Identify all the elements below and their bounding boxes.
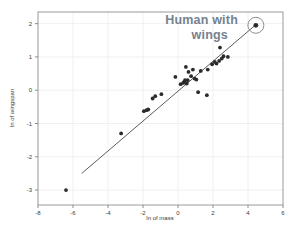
data-point (226, 55, 230, 59)
data-point (146, 108, 150, 112)
data-point (64, 188, 68, 192)
data-point (196, 90, 200, 94)
data-point (119, 132, 123, 136)
x-tick-label: 2 (211, 210, 215, 216)
y-axis-label: ln of wingspan (9, 89, 15, 127)
y-tick-label: -3 (27, 187, 33, 193)
x-tick-label: -8 (35, 210, 41, 216)
data-point (186, 78, 190, 82)
annotation-line-2: wings (191, 28, 228, 42)
x-tick-label: 6 (281, 210, 285, 216)
plot-background (38, 12, 283, 205)
data-point (189, 74, 193, 78)
annotation-line-1: Human with (165, 13, 238, 27)
x-tick-label: 4 (246, 210, 250, 216)
y-tick-label: -1 (27, 121, 33, 127)
y-tick-label: -2 (27, 154, 33, 160)
data-point (173, 75, 177, 79)
data-point (194, 78, 198, 82)
data-point (184, 65, 188, 69)
scatter-plot: -8-6-4-20246 -3-2-1012 ln of mass ln of … (0, 0, 296, 235)
data-point (191, 68, 195, 72)
data-point (185, 82, 189, 86)
x-tick-label: -6 (70, 210, 76, 216)
y-axis-ticks: -3-2-1012 (27, 21, 38, 193)
data-point (187, 70, 191, 74)
data-point (159, 92, 163, 96)
data-point (199, 69, 203, 73)
y-tick-label: 1 (29, 54, 33, 60)
highlight-point (253, 23, 258, 28)
chart-figure: -8-6-4-20246 -3-2-1012 ln of mass ln of … (0, 0, 296, 235)
data-point (153, 94, 157, 98)
x-tick-label: 0 (176, 210, 180, 216)
data-point (206, 68, 210, 72)
x-tick-label: -4 (105, 210, 111, 216)
data-point (222, 54, 226, 58)
y-tick-label: 0 (29, 87, 33, 93)
data-point (205, 93, 209, 97)
y-tick-label: 2 (29, 21, 33, 27)
data-point (218, 46, 222, 50)
x-axis-label: ln of mass (146, 215, 173, 221)
